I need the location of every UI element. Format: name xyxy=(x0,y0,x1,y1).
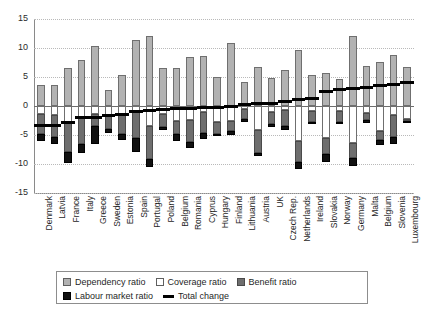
y-axis-tick-label: -5 xyxy=(2,130,28,139)
gridline xyxy=(34,193,414,194)
x-axis-category-label: Italy xyxy=(86,196,95,212)
bar-group xyxy=(268,19,276,193)
total-change-marker xyxy=(156,108,170,111)
bar-segment-dependency-ratio xyxy=(118,75,126,106)
bar-group xyxy=(322,19,330,193)
legend-item-dependency-ratio: Dependency ratio xyxy=(63,277,146,287)
x-axis-category-label: Estonia xyxy=(126,196,135,224)
x-axis-category-label: Sweden xyxy=(113,196,122,227)
bar-segment-dependency-ratio xyxy=(64,68,72,106)
bar-segment-dependency-ratio xyxy=(132,40,140,106)
bar-segment-labour-market-ratio xyxy=(118,134,126,139)
bar-segment-dependency-ratio xyxy=(159,68,167,106)
legend-item-benefit-ratio: Benefit ratio xyxy=(237,277,297,287)
bar-segment-coverage-ratio xyxy=(376,106,384,131)
bar-segment-benefit-ratio xyxy=(118,115,126,135)
bar-segment-coverage-ratio xyxy=(91,106,99,114)
bar-segment-dependency-ratio xyxy=(403,67,411,106)
bar-segment-labour-market-ratio xyxy=(37,134,45,140)
bar-segment-labour-market-ratio xyxy=(200,133,208,139)
total-change-marker xyxy=(373,84,387,87)
x-axis-category-label: Slovenia xyxy=(398,196,407,229)
bar-segment-labour-market-ratio xyxy=(295,162,303,170)
bar-group xyxy=(173,19,181,193)
bar-segment-labour-market-ratio xyxy=(254,153,262,156)
bar-group xyxy=(227,19,235,193)
total-change-marker xyxy=(360,86,374,89)
x-axis-category-label: Ireland xyxy=(316,196,325,222)
total-change-marker xyxy=(305,97,319,100)
legend-label: Labour market ratio xyxy=(75,291,153,301)
total-change-marker xyxy=(34,124,48,127)
bar-segment-labour-market-ratio xyxy=(64,152,72,163)
bar-segment-coverage-ratio xyxy=(37,106,45,114)
bar-group xyxy=(363,19,371,193)
bar-group xyxy=(118,19,126,193)
legend-swatch-icon-benefit-ratio xyxy=(237,278,245,286)
bar-segment-labour-market-ratio xyxy=(186,142,194,148)
legend-label: Dependency ratio xyxy=(75,277,146,287)
legend-row-2: Labour market ratio Total change xyxy=(63,289,361,303)
x-axis-category-label: Greece xyxy=(99,196,108,224)
bar-segment-labour-market-ratio xyxy=(268,124,276,127)
legend-swatch-icon-dependency-ratio xyxy=(63,278,71,286)
x-axis-category-label: Germany xyxy=(357,196,366,231)
bar-segment-dependency-ratio xyxy=(37,85,45,106)
bar-segment-labour-market-ratio xyxy=(78,144,86,153)
bar-segment-benefit-ratio xyxy=(78,118,86,144)
total-change-marker xyxy=(183,107,197,110)
bar-segment-coverage-ratio xyxy=(390,106,398,115)
x-axis-category-label: Denmark xyxy=(45,196,54,230)
bar-segment-benefit-ratio xyxy=(254,130,262,153)
bar-segment-dependency-ratio xyxy=(213,77,221,106)
bar-segment-dependency-ratio xyxy=(186,57,194,106)
bar-segment-benefit-ratio xyxy=(105,116,113,129)
total-change-marker xyxy=(319,90,333,93)
x-axis-category-label: Finland xyxy=(235,196,244,224)
bar-segment-labour-market-ratio xyxy=(281,126,289,130)
bar-segment-labour-market-ratio xyxy=(146,159,154,167)
bar-segment-benefit-ratio xyxy=(200,112,208,133)
total-change-marker xyxy=(102,114,116,117)
bar-segment-coverage-ratio xyxy=(349,106,357,143)
y-axis-tick-label: 0 xyxy=(2,101,28,110)
bar-segment-dependency-ratio xyxy=(105,90,113,106)
legend-label: Benefit ratio xyxy=(249,277,297,287)
bar-group xyxy=(78,19,86,193)
bar-segment-dependency-ratio xyxy=(349,36,357,106)
bar-group xyxy=(159,19,167,193)
bar-segment-benefit-ratio xyxy=(132,112,140,139)
bar-segment-labour-market-ratio xyxy=(159,127,167,130)
chart-legend: Dependency ratio Coverage ratio Benefit … xyxy=(56,271,368,304)
legend-item-coverage-ratio: Coverage ratio xyxy=(156,277,227,287)
x-axis-category-labels: DenmarkLatviaFranceItalyGreeceSwedenEsto… xyxy=(34,196,414,268)
bar-segment-labour-market-ratio xyxy=(336,122,344,124)
legend-item-total-change: Total change xyxy=(163,291,229,301)
x-axis-category-label: Portugal xyxy=(153,196,162,228)
y-axis-tick-label: 15 xyxy=(2,14,28,23)
bar-segment-dependency-ratio xyxy=(78,60,86,106)
x-axis-category-label: Romania xyxy=(194,196,203,230)
bar-segment-coverage-ratio xyxy=(64,106,72,122)
x-axis-category-label: France xyxy=(72,196,81,222)
bar-segment-benefit-ratio xyxy=(390,115,398,138)
bar-segment-benefit-ratio xyxy=(146,126,154,160)
bar-segment-dependency-ratio xyxy=(51,85,59,106)
bar-group xyxy=(403,19,411,193)
bar-segment-benefit-ratio xyxy=(308,111,316,122)
bar-segment-benefit-ratio xyxy=(336,111,344,122)
y-axis-tick-label: 10 xyxy=(2,43,28,52)
bar-segment-coverage-ratio xyxy=(322,106,330,138)
bar-segment-dependency-ratio xyxy=(390,55,398,106)
bar-segment-benefit-ratio xyxy=(376,131,384,140)
bar-segment-benefit-ratio xyxy=(227,121,235,131)
bar-segment-labour-market-ratio xyxy=(51,137,59,143)
total-change-marker xyxy=(88,116,102,119)
total-change-marker xyxy=(115,113,129,116)
legend-line-icon-total-change xyxy=(163,295,174,298)
x-axis-category-label: Spain xyxy=(140,196,149,218)
bar-group xyxy=(200,19,208,193)
bar-group xyxy=(254,19,262,193)
x-axis-category-label: Malta xyxy=(371,196,380,217)
bar-segment-benefit-ratio xyxy=(349,143,357,158)
